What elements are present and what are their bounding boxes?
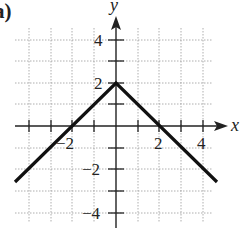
axes xyxy=(15,22,222,228)
y-tick-label-neg2: −2 xyxy=(82,161,100,178)
y-tick-label-4: 4 xyxy=(94,32,103,49)
panel-label: a) xyxy=(0,1,12,22)
absolute-value-graph xyxy=(0,0,243,229)
y-axis-label: y xyxy=(110,0,118,14)
grid-lines xyxy=(15,28,213,222)
x-tick-label-2: 2 xyxy=(154,135,163,152)
x-tick-label-neg2: −2 xyxy=(56,135,74,152)
y-tick-label-neg4: −4 xyxy=(82,205,100,222)
x-axis-label: x xyxy=(231,116,239,134)
y-tick-label-2: 2 xyxy=(94,75,103,92)
x-tick-label-4: 4 xyxy=(197,135,206,152)
